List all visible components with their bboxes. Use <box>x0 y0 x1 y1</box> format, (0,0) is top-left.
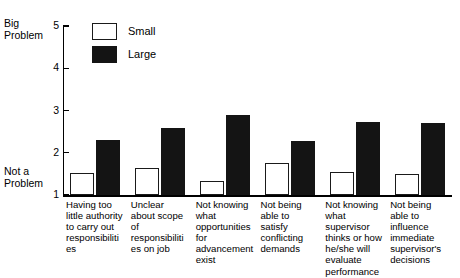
y-tick-label: 1 <box>45 189 59 200</box>
bar-large <box>96 140 120 195</box>
bar-small <box>395 174 419 195</box>
bar-large <box>291 141 315 195</box>
x-axis-line <box>63 195 452 197</box>
bar-large <box>421 123 445 195</box>
category-label: Not being able to satisfy conflicting de… <box>261 199 319 254</box>
category-label: Not knowing what supervisor thinks or ho… <box>325 199 383 277</box>
y-tick-label: 4 <box>45 62 59 73</box>
bar-small <box>265 163 289 195</box>
y-tick-label: 2 <box>45 147 59 158</box>
legend-label: Large <box>128 48 156 61</box>
y-tick-label: 5 <box>45 20 59 31</box>
y-tick-label: 3 <box>45 105 59 116</box>
x-axis-category-labels: Having too little authority to carry out… <box>63 199 452 278</box>
legend-swatch-large <box>92 46 117 63</box>
category-label: Having too little authority to carry out… <box>66 199 124 254</box>
bar-group <box>258 26 323 195</box>
bar-large <box>161 128 185 195</box>
plot-area <box>63 26 452 195</box>
bar-group <box>193 26 258 195</box>
bar-small <box>330 172 354 195</box>
bar-large <box>356 122 380 195</box>
legend-label: Small <box>128 25 156 38</box>
bar-group <box>387 26 452 195</box>
bar-large <box>226 115 250 195</box>
legend-swatch-small <box>92 23 117 40</box>
category-label: Unclear about scope of responsibilities … <box>131 199 189 254</box>
y-axis-bottom-label: Not a Problem <box>4 166 43 189</box>
bar-group <box>322 26 387 195</box>
bar-chart: Big Problem Not a Problem 12345 SmallLar… <box>0 0 460 278</box>
y-axis-top-label: Big Problem <box>4 18 43 41</box>
category-label: Not knowing what opportunities for advan… <box>196 199 254 266</box>
category-label: Not being able to influence immediate su… <box>390 199 448 266</box>
bar-small <box>70 173 94 195</box>
bar-small <box>135 168 159 195</box>
bar-small <box>200 181 224 195</box>
